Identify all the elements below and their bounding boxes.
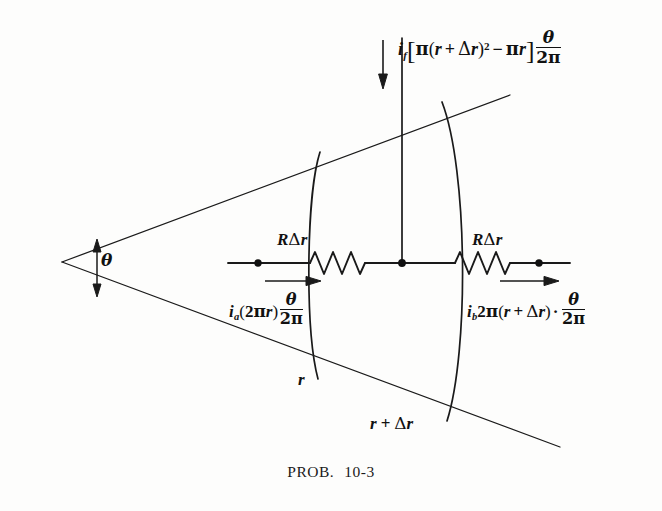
caption-label: PROB.: [287, 463, 334, 480]
radius-inner-label: r: [298, 371, 305, 388]
flux-delta: Δ: [458, 38, 471, 59]
flux-delta-r: r: [471, 39, 478, 59]
current-b-fraction-numerator: θ: [562, 292, 585, 310]
node-dot-left: [254, 259, 261, 266]
current-arrow-a-head: [306, 276, 321, 285]
flux-bracket-close: ]: [526, 36, 535, 65]
resistor-right-delta: Δ: [483, 229, 495, 249]
radius-outer-label: r+Δr: [370, 415, 413, 432]
current-b-fraction-denominator: 2π: [562, 310, 585, 327]
flux-pi-1: π: [415, 38, 428, 59]
current-b-delta: Δ: [526, 301, 538, 321]
flux-plus: +: [442, 39, 458, 59]
angle-arrowhead-bottom: [93, 284, 101, 297]
wedge-lower-edge: [62, 262, 560, 447]
flux-arrowhead: [379, 74, 388, 89]
inner-arc-radius-r: [309, 152, 320, 379]
angle-indicator: [93, 239, 101, 297]
current-a-fraction: θ2π: [280, 292, 303, 327]
resistor-right-R: R: [472, 230, 483, 249]
resistor-left-delta: Δ: [288, 229, 300, 249]
flux-fraction-numerator: θ: [536, 29, 560, 48]
flux-down-arrow: [379, 40, 388, 89]
resistor-right-label: RΔr: [472, 231, 502, 248]
current-arrow-a: [265, 276, 321, 285]
current-a-fraction-denominator: 2π: [280, 310, 303, 327]
current-b-pi: π: [486, 301, 498, 321]
current-a-paren-close: ): [272, 302, 278, 321]
angle-theta-label: θ: [101, 252, 112, 269]
flux-minus: −: [490, 39, 506, 59]
radius-outer-delta: Δ: [394, 413, 406, 433]
current-b-dot: ·: [551, 302, 561, 321]
caption-number: 10-3: [344, 463, 374, 480]
current-a-fraction-numerator: θ: [280, 292, 303, 310]
radius-outer-r: r: [370, 414, 377, 433]
current-b-paren-close: ): [545, 302, 551, 321]
current-a-pi: π: [253, 301, 265, 321]
current-b-label: ib2π(r+Δr)·θ2π: [467, 292, 585, 327]
flux-exponent: 2: [484, 40, 490, 52]
resistor-left-zigzag: [310, 252, 365, 274]
resistor-right-r: r: [496, 230, 503, 249]
figure-caption: PROB.10-3: [0, 463, 662, 481]
flux-fraction: θ2π: [536, 29, 560, 66]
current-arrow-b-head: [544, 276, 559, 285]
flux-r: r: [435, 39, 442, 59]
node-dot-right: [535, 259, 542, 266]
current-a-label: ia(2πr)θ2π: [229, 292, 303, 327]
current-arrow-b: [500, 276, 559, 285]
outer-arc-radius-r-plus-delta-r: [442, 102, 463, 421]
flux-fraction-denominator: 2π: [536, 48, 560, 66]
resistor-left-label: RΔr: [277, 231, 307, 248]
figure-page: if[π(r+Δr)2−πr]θ2π RΔr RΔr ia(2πr)θ2π ib…: [0, 0, 662, 511]
flux-pi-2: π: [506, 38, 519, 59]
resistor-left-r: r: [301, 230, 308, 249]
resistor-left-R: R: [277, 230, 288, 249]
sector-resistor-diagram: [0, 0, 662, 511]
angle-arrowhead-top: [93, 239, 101, 252]
flux-current-label: if[π(r+Δr)2−πr]θ2π: [398, 29, 561, 66]
current-b-two: 2: [477, 302, 486, 321]
current-b-plus: +: [510, 302, 526, 321]
radius-outer-delta-r: r: [407, 414, 414, 433]
node-dot-center: [398, 259, 406, 267]
flux-r-2: r: [519, 39, 526, 59]
radius-outer-plus: +: [377, 414, 395, 433]
current-b-fraction: θ2π: [562, 292, 585, 327]
